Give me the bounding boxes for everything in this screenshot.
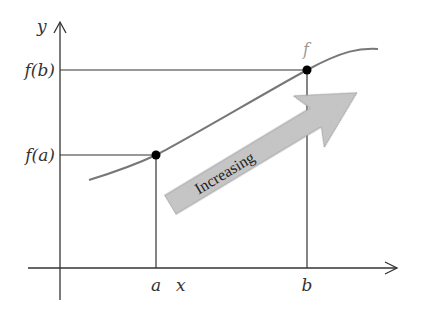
b-label: b	[302, 275, 313, 295]
point-a-marker	[152, 151, 161, 160]
y-axis-label: y	[36, 16, 47, 36]
point-b-marker	[303, 66, 312, 75]
x-axis	[28, 262, 397, 274]
increasing-arrow: Increasing	[155, 67, 373, 231]
curve-label: f	[302, 40, 312, 59]
x-axis-title: x	[176, 275, 186, 295]
a-label: a	[151, 275, 161, 295]
y-axis	[54, 22, 66, 300]
f-of-b-label: f(b)	[23, 60, 55, 80]
arrow-right-icon	[155, 67, 373, 231]
guide-lines	[60, 70, 307, 268]
f-of-a-label: f(a)	[23, 145, 55, 165]
increasing-function-diagram: y x x x x x x f f(b) f(a) a b Increasing	[0, 0, 425, 317]
